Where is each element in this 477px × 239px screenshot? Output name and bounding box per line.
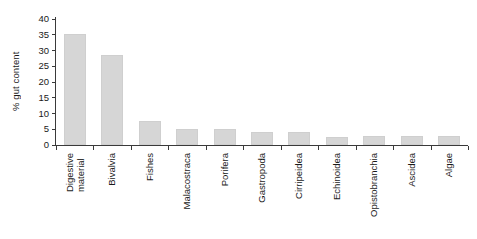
y-tick-label: 30 — [38, 45, 52, 57]
x-axis-label: Opistobranchia — [369, 153, 380, 217]
x-axis-label: Malacostraca — [182, 153, 193, 210]
bar[interactable] — [176, 129, 198, 145]
y-tick-label: 25 — [38, 60, 52, 72]
bar[interactable] — [401, 136, 423, 145]
y-tick: 10 — [38, 108, 56, 120]
y-tick: 35 — [38, 29, 56, 41]
y-tick-label: 20 — [38, 76, 52, 88]
bar[interactable] — [251, 132, 273, 145]
x-tick-mark — [93, 146, 94, 150]
y-axis-ticks: 0510152025303540 — [0, 0, 56, 164]
bar[interactable] — [214, 129, 236, 145]
x-tick-mark — [431, 146, 432, 150]
plot-area — [56, 19, 468, 145]
x-axis-label: Bivalvia — [107, 153, 118, 186]
x-axis-line — [55, 145, 468, 146]
x-axis-label: Gastropoda — [257, 153, 268, 203]
x-tick-mark — [243, 146, 244, 150]
x-tick-mark — [468, 146, 469, 150]
y-tick-label: 35 — [38, 29, 52, 41]
y-tick-label: 10 — [38, 108, 52, 120]
x-axis-label: Algae — [444, 153, 455, 177]
y-tick-label: 15 — [38, 92, 52, 104]
bar[interactable] — [139, 121, 161, 145]
y-tick-label: 5 — [44, 123, 52, 135]
x-tick-mark — [281, 146, 282, 150]
x-tick-mark — [206, 146, 207, 150]
x-tick-mark — [168, 146, 169, 150]
x-tick-mark — [356, 146, 357, 150]
x-tick-mark — [56, 146, 57, 150]
x-axis-label: Porifera — [220, 153, 231, 186]
bar[interactable] — [288, 132, 310, 145]
bar[interactable] — [363, 136, 385, 145]
bar[interactable] — [438, 136, 460, 145]
y-tick: 40 — [38, 13, 56, 25]
x-tick-mark — [131, 146, 132, 150]
x-axis-label: Echinoidea — [332, 153, 343, 200]
x-axis-label: Fishes — [145, 153, 156, 181]
x-tick-mark — [393, 146, 394, 150]
y-tick: 15 — [38, 92, 56, 104]
x-axis-label: Digestive material — [65, 153, 86, 192]
bar-chart: % gut content 0510152025303540 Digestive… — [0, 0, 477, 239]
bar[interactable] — [326, 137, 348, 145]
bar[interactable] — [64, 34, 86, 145]
y-tick: 30 — [38, 45, 56, 57]
y-tick: 25 — [38, 60, 56, 72]
x-tick-mark — [318, 146, 319, 150]
y-tick-label: 0 — [44, 139, 52, 151]
bar[interactable] — [101, 55, 123, 145]
y-tick-label: 40 — [38, 13, 52, 25]
x-axis-label: Cirripeidea — [294, 153, 305, 199]
y-tick: 20 — [38, 76, 56, 88]
x-axis-label: Ascidea — [407, 153, 418, 187]
